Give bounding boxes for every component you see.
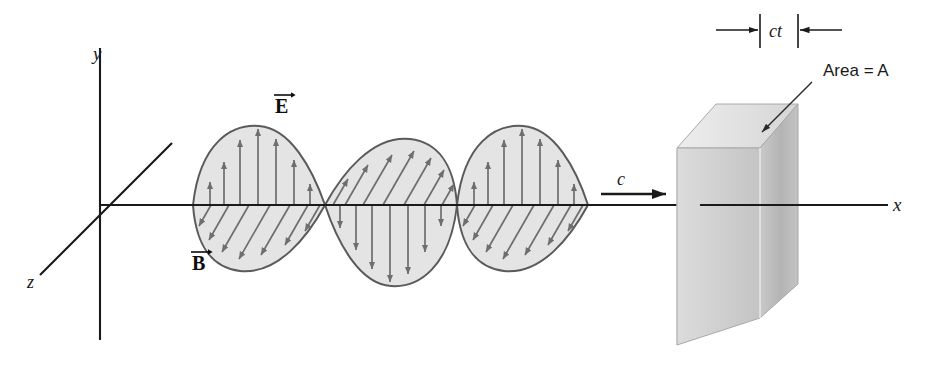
slab-group — [677, 104, 798, 345]
propagation-speed-label: c — [617, 169, 625, 189]
e-lobe-1 — [193, 126, 325, 205]
b-lobe-1 — [193, 205, 325, 271]
b-field-label: B — [192, 252, 205, 274]
b-field-label-group: B — [191, 249, 213, 274]
e-field-label-group: E — [274, 92, 296, 117]
b-lobe-3 — [457, 205, 588, 271]
b-lobe-2 — [325, 139, 457, 205]
slab-side-face — [677, 148, 760, 345]
y-axis-label: y — [91, 43, 102, 64]
slab-area-label: Area = A — [823, 61, 889, 80]
z-axis-label: z — [26, 272, 34, 292]
wave-group — [193, 126, 588, 286]
figure-canvas: y z x E B c ct Area = A — [0, 0, 928, 379]
e-lobe-2 — [325, 205, 457, 286]
e-vector-overline-arrowhead — [291, 92, 296, 98]
slab-thickness-label: ct — [769, 21, 783, 41]
z-axis — [40, 143, 172, 275]
e-field-label: E — [275, 95, 288, 117]
em-wave-diagram: y z x E B c ct Area = A — [0, 0, 928, 379]
x-axis-label: x — [892, 194, 902, 215]
